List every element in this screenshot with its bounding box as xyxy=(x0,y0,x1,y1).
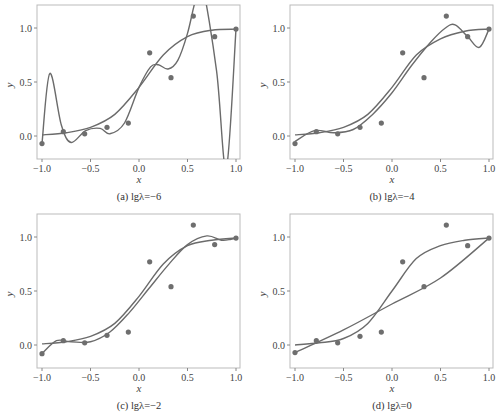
data-point xyxy=(400,259,405,264)
x-tick-label: −0.5 xyxy=(81,372,99,383)
y-axis-label: y xyxy=(256,82,268,88)
fit-curve xyxy=(295,238,489,352)
x-tick-label: 0.5 xyxy=(181,163,194,174)
x-axis-label: x xyxy=(136,173,142,185)
data-point xyxy=(191,223,196,228)
y-axis-label: y xyxy=(256,291,268,297)
data-point xyxy=(292,141,297,146)
y-tick-label: 0.5 xyxy=(20,77,33,88)
x-tick-label: −0.5 xyxy=(334,163,352,174)
x-tick-label: −1.0 xyxy=(33,372,51,383)
y-tick-label: 1.0 xyxy=(20,23,33,34)
y-tick-label: 1.0 xyxy=(273,23,286,34)
x-axis-label: x xyxy=(389,173,395,185)
true-curve xyxy=(295,238,489,345)
subplot-caption: (b) lgλ=−4 xyxy=(369,191,415,203)
x-axis-label: x xyxy=(136,382,142,394)
data-point xyxy=(61,129,66,134)
data-point xyxy=(335,131,340,136)
subplot-caption: (c) lgλ=−2 xyxy=(117,400,162,412)
y-tick-label: 0.5 xyxy=(273,286,286,297)
data-point xyxy=(82,131,87,136)
data-point xyxy=(104,333,109,338)
data-point xyxy=(379,120,384,125)
x-tick-label: 0.5 xyxy=(434,372,447,383)
data-point xyxy=(82,340,87,345)
figure: 0.00.51.0−1.0−0.50.00.51.0xy(a) lgλ=−60.… xyxy=(0,0,500,420)
x-tick-label: 1.0 xyxy=(230,163,243,174)
data-point xyxy=(357,125,362,130)
data-point xyxy=(212,34,217,39)
y-tick-label: 0.0 xyxy=(20,340,33,351)
x-tick-label: 0.5 xyxy=(434,163,447,174)
y-tick-label: 0.0 xyxy=(20,131,33,142)
data-point xyxy=(357,334,362,339)
subplot-a: 0.00.51.0−1.0−0.50.00.51.0xy(a) lgλ=−6 xyxy=(3,0,242,203)
data-point xyxy=(168,75,173,80)
y-tick-label: 1.0 xyxy=(273,232,286,243)
x-tick-label: 1.0 xyxy=(230,372,243,383)
data-point xyxy=(379,329,384,334)
data-point xyxy=(104,125,109,130)
x-tick-label: −1.0 xyxy=(33,163,51,174)
data-point xyxy=(486,235,491,240)
data-point xyxy=(168,284,173,289)
data-point xyxy=(39,351,44,356)
data-point xyxy=(147,50,152,55)
x-tick-label: −1.0 xyxy=(286,163,304,174)
data-point xyxy=(126,329,131,334)
axes-frame xyxy=(290,5,493,159)
data-point xyxy=(400,50,405,55)
data-point xyxy=(421,75,426,80)
y-tick-label: 0.0 xyxy=(273,340,286,351)
data-point xyxy=(39,141,44,146)
data-point xyxy=(421,284,426,289)
y-tick-label: 1.0 xyxy=(20,232,33,243)
subplot-caption: (a) lgλ=−6 xyxy=(117,191,162,203)
data-point xyxy=(233,235,238,240)
data-point xyxy=(147,259,152,264)
subplot-b: 0.00.51.0−1.0−0.50.00.51.0xy(b) lgλ=−4 xyxy=(256,5,495,203)
data-point xyxy=(126,120,131,125)
fit-curve xyxy=(42,0,236,169)
true-curve xyxy=(42,29,236,135)
data-point xyxy=(465,34,470,39)
x-tick-label: −0.5 xyxy=(334,372,352,383)
true-curve xyxy=(295,29,489,135)
x-tick-label: 1.0 xyxy=(483,372,496,383)
true-curve xyxy=(42,238,236,344)
data-point xyxy=(61,338,66,343)
data-point xyxy=(292,350,297,355)
data-point xyxy=(212,242,217,247)
y-tick-label: 0.0 xyxy=(273,131,286,142)
x-tick-label: 1.0 xyxy=(483,163,496,174)
x-axis-label: x xyxy=(389,382,395,394)
data-point xyxy=(335,340,340,345)
axes-frame xyxy=(37,5,240,159)
subplot-d: 0.00.51.0−1.0−0.50.00.51.0xy(d) lgλ=0 xyxy=(256,214,495,412)
axes-frame xyxy=(37,214,240,368)
subplot-c: 0.00.51.0−1.0−0.50.00.51.0xy(c) lgλ=−2 xyxy=(3,214,242,412)
y-axis-label: y xyxy=(3,291,15,297)
data-point xyxy=(444,14,449,19)
fit-curve xyxy=(295,24,489,141)
subplot-caption: (d) lgλ=0 xyxy=(372,400,411,412)
data-point xyxy=(233,26,238,31)
data-point xyxy=(486,26,491,31)
fit-curve xyxy=(42,236,236,354)
data-point xyxy=(314,338,319,343)
data-point xyxy=(314,129,319,134)
data-point xyxy=(444,223,449,228)
y-tick-label: 0.5 xyxy=(20,286,33,297)
y-tick-label: 0.5 xyxy=(273,77,286,88)
x-tick-label: −0.5 xyxy=(81,163,99,174)
y-axis-label: y xyxy=(3,82,15,88)
x-tick-label: −1.0 xyxy=(286,372,304,383)
x-tick-label: 0.5 xyxy=(181,372,194,383)
data-point xyxy=(191,14,196,19)
data-point xyxy=(465,243,470,248)
